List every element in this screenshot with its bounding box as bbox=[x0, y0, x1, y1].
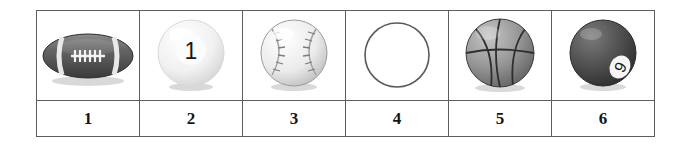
ball-cell-5[interactable] bbox=[449, 11, 552, 101]
number-label-cell-6: 6 bbox=[552, 101, 655, 137]
basketball-icon bbox=[461, 16, 539, 96]
number-label-5: 5 bbox=[496, 109, 505, 128]
number-label-cell-3: 3 bbox=[243, 101, 346, 137]
ball-cell-6[interactable]: 9 bbox=[552, 11, 655, 101]
american-football-icon bbox=[40, 23, 136, 89]
billiard-ball-nine-icon: 9 bbox=[565, 17, 641, 95]
number-label-cell-4: 4 bbox=[346, 101, 449, 137]
ball-image-container-3 bbox=[243, 11, 345, 100]
ball-number-table: 1 bbox=[36, 10, 655, 137]
blank-circle-icon bbox=[359, 17, 435, 95]
table-row-images: 1 bbox=[37, 11, 655, 101]
worksheet-canvas: 1 bbox=[0, 0, 690, 144]
billiard-ball-numeral-2: 1 bbox=[185, 38, 198, 64]
number-label-4: 4 bbox=[393, 109, 402, 128]
ball-image-container-5 bbox=[449, 11, 551, 100]
number-label-2: 2 bbox=[187, 109, 196, 128]
ball-cell-3[interactable] bbox=[243, 11, 346, 101]
number-label-cell-2: 2 bbox=[140, 101, 243, 137]
number-label-cell-1: 1 bbox=[37, 101, 140, 137]
ball-image-container-4 bbox=[346, 11, 448, 100]
number-label-6: 6 bbox=[599, 109, 608, 128]
ball-cell-1[interactable] bbox=[37, 11, 140, 101]
ball-cell-4[interactable] bbox=[346, 11, 449, 101]
table-row-labels: 1 2 3 4 5 6 bbox=[37, 101, 655, 137]
number-label-3: 3 bbox=[290, 109, 299, 128]
number-label-cell-5: 5 bbox=[449, 101, 552, 137]
baseball-icon bbox=[256, 17, 332, 95]
ball-image-container-2: 1 bbox=[140, 11, 242, 100]
number-label-1: 1 bbox=[84, 109, 93, 128]
ball-cell-2[interactable]: 1 bbox=[140, 11, 243, 101]
ball-image-container-6: 9 bbox=[552, 11, 654, 100]
billiard-ball-one-icon: 1 bbox=[153, 17, 229, 95]
ball-image-container-1 bbox=[37, 11, 139, 100]
